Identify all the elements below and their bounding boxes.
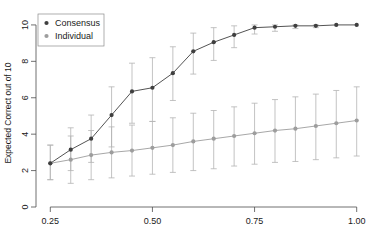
x-tick-label: 0.25 [42,216,60,226]
x-tick-label: 0.75 [246,216,264,226]
x-tick-label: 1.00 [348,216,366,226]
data-point [69,158,73,162]
data-point [48,161,52,165]
data-point [252,26,256,30]
data-point [171,143,175,147]
series-line-individual [50,121,356,164]
legend: Consensus Individual [38,14,104,46]
data-point [355,23,359,27]
y-tick-label: 4 [20,132,30,137]
legend-label-individual: Individual [55,31,93,41]
data-point [150,86,154,90]
data-point [293,24,297,28]
data-point [293,127,297,131]
data-point [314,24,318,28]
y-tick-label: 2 [20,168,30,173]
legend-marker-individual [44,34,48,38]
data-point [191,139,195,143]
y-tick-label: 6 [20,95,30,100]
data-point [191,49,195,53]
data-point [212,40,216,44]
x-axis-ticks: 0.250.500.751.00 [42,207,366,226]
data-point [69,148,73,152]
y-tick-label: 8 [20,59,30,64]
y-tick-label: 0 [20,204,30,209]
data-point [355,118,359,122]
data-point [212,137,216,141]
data-point [109,150,113,154]
legend-marker-consensus [44,21,48,25]
data-point [150,146,154,150]
data-point [252,131,256,135]
y-axis-title: Expected Correct out of 10 [3,62,13,163]
data-point [334,121,338,125]
data-point [314,124,318,128]
data-point [334,23,338,27]
data-point [232,134,236,138]
error-bars-consensus [47,25,319,180]
data-points-individual [48,118,359,165]
data-point [130,89,134,93]
x-tick-label: 0.50 [144,216,162,226]
data-point [273,25,277,29]
y-tick-label: 10 [20,20,30,30]
y-axis-ticks: 0246810 [20,20,36,210]
data-point [130,148,134,152]
data-point [232,33,236,37]
data-point [273,128,277,132]
chart-container: 0246810 0.250.500.751.00 Expected Correc… [0,0,379,246]
data-point [109,113,113,117]
data-point [89,153,93,157]
legend-label-consensus: Consensus [55,18,101,28]
expected-correct-line-chart: 0246810 0.250.500.751.00 Expected Correc… [0,0,379,246]
data-point [171,71,175,75]
data-point [89,137,93,141]
